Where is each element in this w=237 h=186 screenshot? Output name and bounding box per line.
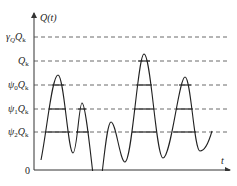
y-axis-label: Q(t) (40, 12, 57, 24)
load-time-diagram: Q(t) t 0 γQQk Qk ψ0Qk ψ1Qk ψ2Qk (0, 0, 237, 186)
level-label-Qk: Qk (18, 55, 29, 68)
x-axis-label: t (221, 155, 224, 166)
level-label-psi1-Qk: ψ1Qk (8, 103, 29, 116)
below-axis-mask (35, 171, 237, 186)
origin-label: 0 (25, 165, 30, 176)
level-label-psi2-Qk: ψ2Qk (8, 126, 29, 139)
level-label-psi0-Qk: ψ0Qk (8, 79, 29, 92)
load-curve (41, 54, 212, 186)
level-labels: γQQk Qk ψ0Qk ψ1Qk ψ2Qk (6, 31, 29, 139)
level-label-gammaQ-Qk: γQQk (6, 31, 26, 44)
level-crossing-segments (45, 61, 196, 132)
